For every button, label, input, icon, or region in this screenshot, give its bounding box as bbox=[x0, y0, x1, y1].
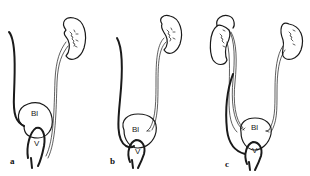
urinary-anatomy-diagram-a bbox=[0, 0, 100, 176]
bladder-label: Bl bbox=[132, 126, 139, 134]
panel-b: Bl V b bbox=[100, 0, 205, 176]
kidney-shape-left-upper bbox=[217, 15, 235, 28]
kidney-shape-left bbox=[210, 25, 229, 64]
vagina-label: V bbox=[34, 140, 39, 148]
panel-a: Bl V a bbox=[0, 0, 100, 176]
vagina-label: V bbox=[135, 148, 140, 156]
kidney-shape bbox=[64, 18, 86, 60]
bladder-shape bbox=[123, 114, 156, 148]
kidney-shape-right bbox=[281, 23, 303, 59]
panel-c: Bl V c bbox=[205, 0, 310, 176]
vagina-label: V bbox=[252, 147, 257, 155]
panel-label-b: b bbox=[110, 157, 115, 166]
bladder-label: Bl bbox=[251, 124, 258, 132]
urinary-anatomy-diagram-b bbox=[100, 0, 205, 176]
panel-label-c: c bbox=[225, 160, 229, 169]
urinary-anatomy-diagram-c bbox=[205, 0, 310, 176]
panel-label-a: a bbox=[10, 157, 15, 166]
kidney-shape bbox=[161, 15, 182, 53]
bladder-label: Bl bbox=[31, 110, 38, 118]
